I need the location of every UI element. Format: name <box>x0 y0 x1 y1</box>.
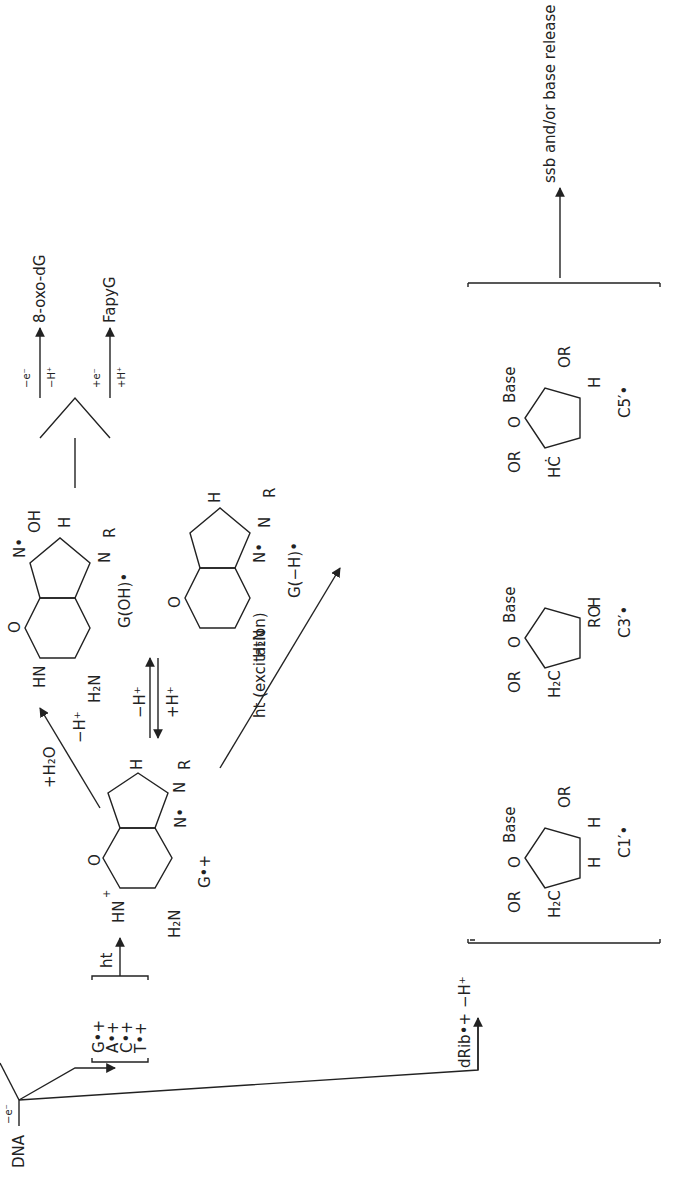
svg-text:Base: Base <box>501 806 519 843</box>
svg-text:H: H <box>586 857 604 868</box>
svg-text:H: H <box>586 817 604 828</box>
svg-text:N: N <box>96 552 114 563</box>
svg-text:O: O <box>166 596 184 608</box>
svg-text:OR: OR <box>556 346 574 368</box>
product-8-oxo-dg: 8-oxo-dG <box>31 255 49 323</box>
drib-cation-label: dRib•+ <box>456 1013 474 1068</box>
svg-text:+: + <box>101 890 112 898</box>
arrow-to-sugar <box>19 1018 478 1100</box>
oxo-cond-1: −e⁻ <box>21 368 32 388</box>
svg-text:O: O <box>86 854 104 866</box>
svg-text:Base: Base <box>501 586 519 623</box>
svg-text:N•: N• <box>11 538 29 558</box>
guanine-cation-structure: + HN O N• H N R H₂N <box>86 759 194 938</box>
c3-radical: OR H₂C O Base H RO <box>501 586 604 698</box>
svg-text:H: H <box>128 759 146 770</box>
svg-text:H: H <box>206 492 224 503</box>
drib-step-label: −H⁺ <box>456 976 474 1008</box>
fork-stub <box>0 1063 19 1100</box>
svg-text:O: O <box>506 856 524 868</box>
svg-text:OR: OR <box>556 786 574 808</box>
svg-text:OH: OH <box>26 510 44 533</box>
svg-text:R: R <box>176 760 194 770</box>
svg-text:OR: OR <box>506 891 524 913</box>
svg-text:N•: N• <box>172 808 190 828</box>
excitation-label: ht (excitation) <box>251 612 269 718</box>
svg-text:H: H <box>56 517 74 528</box>
g-cation-label: G•+ <box>196 855 214 888</box>
outcome-label: ssb and/or base release <box>541 4 559 183</box>
svg-text:H₂N: H₂N <box>166 909 184 938</box>
oxo-cond-2: −H⁺ <box>46 367 57 388</box>
dna-step-label: −e⁻ <box>3 1104 14 1124</box>
svg-text:N•: N• <box>251 543 269 563</box>
svg-text:RO: RO <box>586 606 604 628</box>
svg-text:OR: OR <box>506 671 524 693</box>
svg-text:HN: HN <box>31 666 49 689</box>
c5-label: C5′• <box>616 386 634 418</box>
svg-text:R: R <box>261 488 279 498</box>
eq-reverse-label: +H⁺ <box>164 686 182 718</box>
svg-text:H₂C: H₂C <box>546 890 564 918</box>
svg-text:HN: HN <box>110 901 128 924</box>
c1-radical: OR H₂C O Base H H OR <box>501 786 604 918</box>
svg-text:R: R <box>101 528 119 538</box>
product-fapyg: FapyG <box>101 277 119 323</box>
svg-text:O: O <box>506 416 524 428</box>
svg-text:OR: OR <box>506 451 524 473</box>
svg-text:H: H <box>586 377 604 388</box>
cation-t: T•+ <box>132 1022 150 1054</box>
svg-text:O: O <box>6 621 24 633</box>
c5-radical: OR HĊ O Base H OR <box>501 346 604 478</box>
svg-text:H₂N: H₂N <box>86 674 104 703</box>
hydration-step: −H⁺ <box>71 711 89 743</box>
svg-text:HĊ: HĊ <box>545 456 564 478</box>
product-fork <box>40 398 110 438</box>
eq-forward-label: −H⁺ <box>131 686 149 718</box>
dna-radical-scheme: DNA −e⁻ G•+ A•+ C•+ T•+ ht + HN O N• H N… <box>0 0 688 1188</box>
goh-label: G(OH)• <box>116 573 134 628</box>
c1-label: C1′• <box>616 826 634 858</box>
goh-structure: HN O N• OH H N R H₂N <box>6 510 119 703</box>
sugar-bracket-left <box>468 939 660 943</box>
dna-label: DNA <box>10 1134 28 1168</box>
c3-label: C3′• <box>616 606 634 638</box>
svg-text:N: N <box>256 517 274 528</box>
svg-text:Base: Base <box>501 366 519 403</box>
ht-label: ht <box>98 952 116 968</box>
svg-text:N: N <box>171 782 189 793</box>
hydration-reagent: +H₂O <box>41 746 59 788</box>
g-minus-h-label: G(−H)• <box>286 542 304 598</box>
sugar-bracket-right <box>468 283 660 287</box>
svg-text:H₂C: H₂C <box>546 670 564 698</box>
excitation-arrow <box>220 568 340 768</box>
fapy-cond-1: +e⁻ <box>91 368 102 388</box>
fapy-cond-2: +H⁺ <box>116 367 127 388</box>
svg-text:O: O <box>506 636 524 648</box>
